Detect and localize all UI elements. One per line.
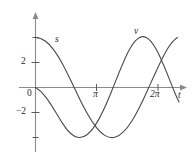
figure-container: 2 −2 0 π 2π t s v	[0, 0, 195, 159]
curve-label-v: v	[134, 27, 138, 37]
y-axis-arrow-icon	[33, 12, 39, 19]
y-tick-label-minus-2: −2	[16, 107, 26, 117]
origin-label: 0	[27, 89, 32, 99]
x-tick-label-2pi: 2π	[150, 90, 160, 100]
x-axis-arrow-icon	[180, 85, 187, 91]
sinusoid-plot	[0, 0, 195, 159]
y-tick-label-2: 2	[21, 57, 26, 67]
curve-label-s: s	[55, 35, 59, 45]
x-axis-label: t	[178, 91, 181, 101]
x-tick-label-pi: π	[93, 90, 98, 100]
